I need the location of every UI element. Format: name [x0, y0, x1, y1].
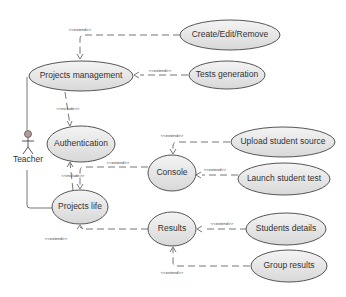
use-case-group-results[interactable]: Group results	[251, 250, 327, 282]
use-case-authentication[interactable]: Authentication	[47, 126, 115, 162]
svg-text:Launch student test: Launch student test	[247, 173, 322, 183]
svg-text:Upload student source: Upload student source	[240, 136, 325, 146]
arrow-head	[197, 226, 202, 232]
svg-text:Authentication: Authentication	[54, 138, 108, 148]
use-case-create-edit-remove[interactable]: Create/Edit/Remove	[180, 20, 280, 50]
use-case-upload-student-source[interactable]: Upload student source	[231, 127, 335, 157]
svg-text:Group results: Group results	[263, 260, 314, 270]
extend-label: <<extend>>	[161, 270, 184, 275]
svg-text:Create/Edit/Remove: Create/Edit/Remove	[192, 29, 269, 39]
extend-line	[173, 248, 250, 266]
svg-text:Tests generation: Tests generation	[196, 69, 259, 79]
use-case-launch-student-test[interactable]: Launch student test	[238, 163, 330, 195]
use-case-diagram: <<extend>> <<extend>> <<include>> <<incl…	[0, 0, 346, 297]
arrow-head	[77, 184, 83, 189]
actor-label: Teacher	[13, 154, 43, 164]
extend-label: <<extend>>	[149, 68, 172, 73]
extend-line	[80, 35, 180, 58]
actor-association-line	[27, 170, 52, 208]
arrow-head	[170, 149, 176, 154]
use-case-console[interactable]: Console	[148, 155, 196, 191]
arrow-head	[196, 172, 201, 178]
extend-label: <<extend>>	[45, 236, 68, 241]
svg-text:Projects management: Projects management	[40, 70, 123, 80]
extend-label: <<extend>>	[107, 160, 130, 165]
svg-text:Console: Console	[156, 167, 187, 177]
extend-label: <<extend>>	[69, 27, 92, 32]
stick-figure-icon	[22, 131, 34, 155]
actor-teacher[interactable]: Teacher	[13, 131, 43, 165]
arrow-head	[67, 121, 72, 126]
use-case-projects-management[interactable]: Projects management	[29, 61, 133, 91]
extend-label: <<extend>>	[161, 133, 184, 138]
svg-text:Results: Results	[158, 223, 186, 233]
svg-text:Projects life: Projects life	[58, 201, 102, 211]
extend-label: <<extend>>	[204, 167, 227, 172]
svg-text:Students details: Students details	[256, 223, 316, 233]
include-label: <<include>>	[61, 173, 85, 178]
use-case-projects-life[interactable]: Projects life	[52, 190, 108, 224]
extend-line	[80, 167, 148, 188]
use-case-tests-generation[interactable]: Tests generation	[189, 61, 265, 89]
include-label: <<include>>	[56, 106, 80, 111]
extend-label: <<extend>>	[211, 221, 234, 226]
use-case-students-details[interactable]: Students details	[246, 213, 326, 245]
arrow-head	[134, 72, 139, 78]
extend-line	[80, 227, 148, 229]
arrow-head	[77, 54, 83, 59]
use-case-results[interactable]: Results	[148, 212, 196, 246]
extend-line	[173, 142, 230, 152]
